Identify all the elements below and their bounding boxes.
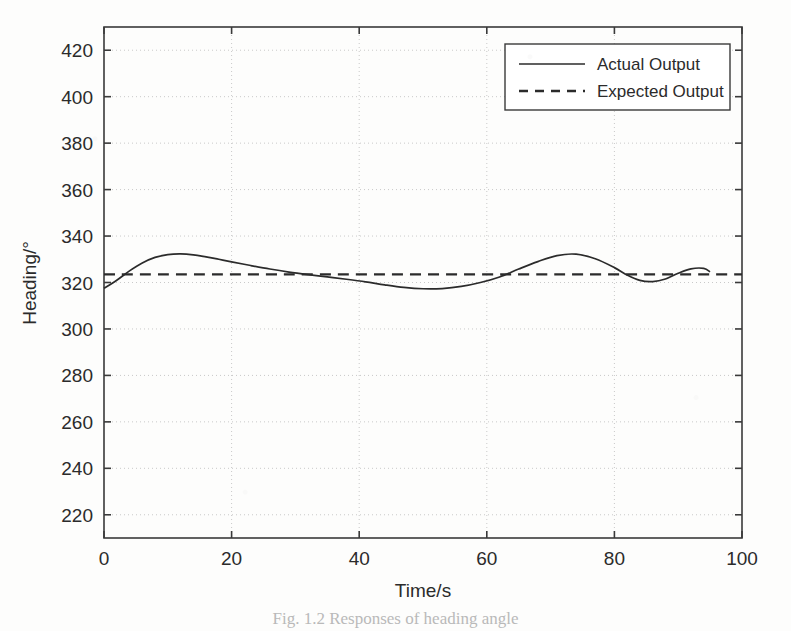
chart-canvas: 2202402602803003203403603804004200204060… [0, 0, 791, 631]
x-tick-label: 60 [476, 548, 497, 569]
figure-container: 2202402602803003203403603804004200204060… [0, 0, 791, 631]
y-axis-label: Heading/° [19, 241, 40, 325]
x-tick-label: 100 [726, 548, 758, 569]
figure-caption-text: Fig. 1.2 Responses of heading angle [0, 612, 791, 629]
y-tick-label: 360 [61, 180, 93, 201]
y-tick-label: 240 [61, 458, 93, 479]
y-tick-label: 420 [61, 40, 93, 61]
y-tick-label: 220 [61, 505, 93, 526]
y-tick-label: 380 [61, 133, 93, 154]
y-tick-label: 260 [61, 412, 93, 433]
x-tick-label: 0 [99, 548, 110, 569]
y-tick-label: 280 [61, 365, 93, 386]
legend-label: Expected Output [597, 82, 724, 101]
figure-caption: Fig. 1.2 Responses of heading angle [0, 612, 791, 631]
x-axis-label: Time/s [395, 580, 451, 601]
y-tick-label: 320 [61, 273, 93, 294]
y-tick-label: 340 [61, 226, 93, 247]
chart-legend[interactable]: Actual OutputExpected Output [505, 44, 730, 110]
legend-label: Actual Output [597, 55, 700, 74]
tick-labels: 2202402602803003203403603804004200204060… [61, 40, 758, 569]
series-line-actual-output [104, 254, 710, 289]
x-tick-label: 80 [604, 548, 625, 569]
x-tick-label: 20 [221, 548, 242, 569]
y-tick-label: 400 [61, 87, 93, 108]
x-tick-label: 40 [349, 548, 370, 569]
y-tick-label: 300 [61, 319, 93, 340]
data-series [104, 254, 742, 289]
